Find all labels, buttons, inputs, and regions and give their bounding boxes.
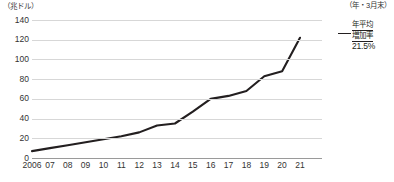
- y-tick-label: 120: [3, 35, 29, 44]
- series-line-chart: [32, 20, 322, 158]
- source-note: [2, 175, 392, 182]
- chart-container: （兆ドル） 020406080100120140 200607080910111…: [0, 0, 394, 182]
- x-axis-caption: （年・3月末）: [345, 0, 391, 11]
- x-axis: 2006070809101112131415161718192021: [0, 160, 394, 174]
- y-tick-label: 20: [3, 134, 29, 143]
- x-tick-label: 13: [152, 160, 161, 171]
- y-tick-label: 40: [3, 114, 29, 123]
- x-tick-label: 19: [260, 160, 269, 171]
- y-tick-label: 60: [3, 94, 29, 103]
- x-tick-label: 21: [295, 160, 304, 171]
- growth-rate-annotation: 年平均 増加率 21.5%: [352, 20, 394, 52]
- x-tick-label: 16: [206, 160, 215, 171]
- gridline: [32, 119, 322, 120]
- series-line: [32, 38, 300, 151]
- x-tick-label: 12: [134, 160, 143, 171]
- x-tick-label: 09: [81, 160, 90, 171]
- annotation-leader-line: [338, 33, 351, 34]
- gridline: [32, 158, 322, 159]
- x-tick-label: 10: [99, 160, 108, 171]
- y-axis: 020406080100120140: [0, 20, 29, 158]
- y-tick-label: 140: [3, 16, 29, 25]
- y-tick-label: 80: [3, 75, 29, 84]
- gridline: [32, 138, 322, 139]
- x-tick-label: 15: [188, 160, 197, 171]
- gridline: [32, 79, 322, 80]
- y-tick-label: 100: [3, 55, 29, 64]
- x-tick-label: 17: [224, 160, 233, 171]
- annotation-line-1: 年平均: [352, 20, 394, 31]
- x-tick-label: 2006: [23, 160, 42, 171]
- x-tick-label: 20: [277, 160, 286, 171]
- x-tick-label: 14: [170, 160, 179, 171]
- plot-area: [32, 20, 322, 158]
- gridline: [32, 59, 322, 60]
- gridline: [32, 20, 322, 21]
- gridline: [32, 99, 322, 100]
- annotation-value: 21.5%: [352, 42, 394, 52]
- x-tick-label: 18: [242, 160, 251, 171]
- x-tick-label: 11: [117, 160, 126, 171]
- x-tick-label: 07: [45, 160, 54, 171]
- gridline: [32, 40, 322, 41]
- x-tick-label: 08: [63, 160, 72, 171]
- y-axis-unit-label: （兆ドル）: [3, 2, 38, 11]
